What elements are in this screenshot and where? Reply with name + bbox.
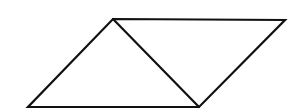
parallelogram-figure [0, 0, 296, 112]
diagram-canvas [0, 0, 296, 112]
diagonal-line [113, 19, 199, 107]
